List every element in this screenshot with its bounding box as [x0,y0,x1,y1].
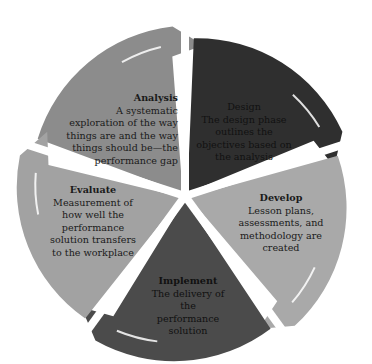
stage-develop-label: Develop Lesson plans, assessments, and m… [236,192,326,255]
stage-implement-label: Implement The delivery of the performanc… [148,275,228,338]
stage-design-desc: The design phase outlines the objectives… [192,114,296,164]
stage-evaluate-label: Evaluate Measurement of how well the per… [44,184,142,260]
stage-develop-desc: Lesson plans, assessments, and methodolo… [236,205,326,255]
stage-analysis-title: Analysis [66,92,178,105]
stage-implement-title: Implement [148,275,228,288]
stage-evaluate-title: Evaluate [44,184,142,197]
stage-implement-desc: The delivery of the performance solution [148,288,228,338]
stage-analysis-label: Analysis A systematic exploration of the… [66,92,178,168]
stage-design-title: Design [192,101,296,114]
stage-design-label: Design The design phase outlines the obj… [192,101,296,164]
stage-develop-title: Develop [236,192,326,205]
stage-evaluate-desc: Measurement of how well the performance … [44,197,142,260]
stage-analysis-desc: A systematic exploration of the way thin… [66,105,178,168]
